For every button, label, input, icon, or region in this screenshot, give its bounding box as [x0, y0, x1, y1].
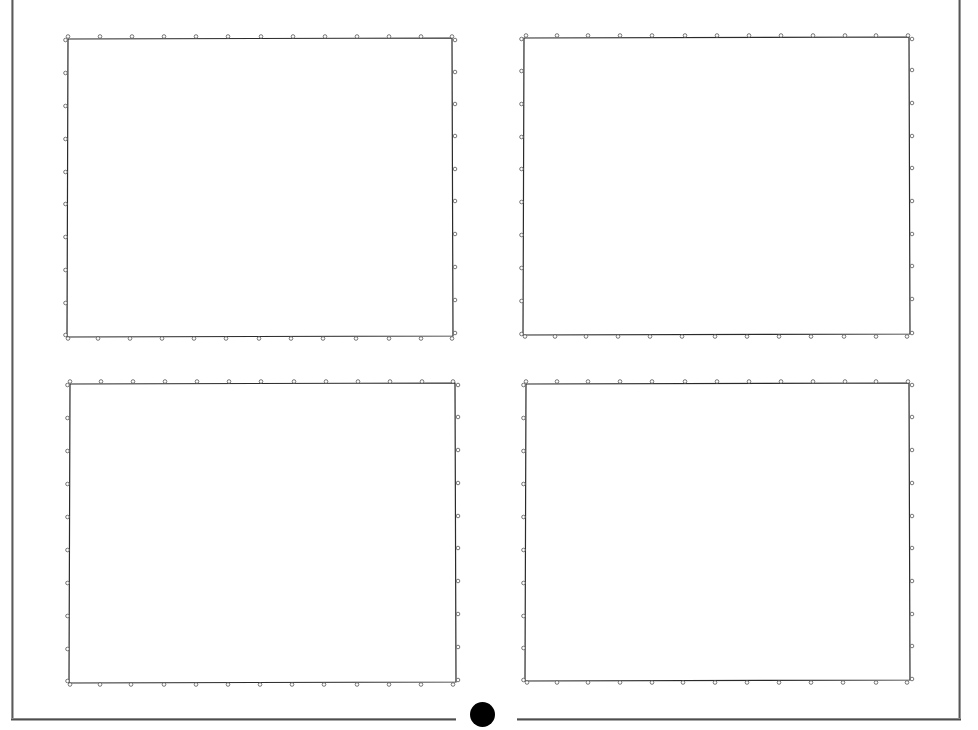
registration-marker-icon	[453, 265, 457, 269]
registration-marker-icon	[910, 199, 914, 203]
registration-marker-icon	[520, 102, 524, 106]
registration-marker-icon	[226, 35, 230, 39]
registration-marker-icon	[745, 681, 749, 685]
registration-marker-icon	[66, 416, 70, 420]
panel-bottom-right	[522, 380, 914, 685]
registration-marker-icon	[777, 335, 781, 339]
registration-marker-icon	[257, 337, 261, 341]
registration-marker-icon	[456, 579, 460, 583]
registration-marker-icon	[522, 416, 526, 420]
registration-marker-icon	[745, 335, 749, 339]
registration-marker-icon	[162, 683, 166, 687]
registration-marker-icon	[524, 380, 528, 384]
registration-marker-icon	[650, 380, 654, 384]
registration-marker-icon	[520, 69, 524, 73]
registration-marker-icon	[910, 37, 914, 41]
panel-border	[67, 38, 453, 337]
registration-marker-icon	[906, 34, 910, 38]
registration-marker-icon	[555, 34, 559, 38]
registration-marker-icon	[683, 380, 687, 384]
registration-marker-icon	[681, 681, 685, 685]
registration-marker-icon	[910, 612, 914, 616]
registration-marker-icon	[522, 383, 526, 387]
registration-marker-icon	[163, 380, 167, 384]
registration-marker-icon	[910, 331, 914, 335]
registration-marker-icon	[779, 380, 783, 384]
registration-marker-icon	[648, 335, 652, 339]
binding-hole-dot	[470, 702, 495, 727]
registration-marker-icon	[66, 647, 70, 651]
registration-marker-icon	[910, 101, 914, 105]
registration-marker-icon	[713, 335, 717, 339]
registration-marker-icon	[419, 683, 423, 687]
registration-marker-icon	[650, 681, 654, 685]
registration-marker-icon	[522, 581, 526, 585]
registration-marker-icon	[66, 614, 70, 618]
registration-marker-icon	[456, 612, 460, 616]
registration-marker-icon	[809, 335, 813, 339]
registration-marker-icon	[524, 34, 528, 38]
registration-marker-icon	[456, 415, 460, 419]
registration-marker-icon	[905, 681, 909, 685]
registration-marker-icon	[910, 579, 914, 583]
registration-marker-icon	[387, 337, 391, 341]
registration-marker-icon	[522, 548, 526, 552]
registration-marker-icon	[715, 34, 719, 38]
registration-marker-icon	[456, 383, 460, 387]
registration-marker-icon	[520, 266, 524, 270]
registration-marker-icon	[129, 683, 133, 687]
registration-marker-icon	[553, 335, 557, 339]
registration-marker-icon	[522, 646, 526, 650]
registration-marker-icon	[66, 35, 70, 39]
registration-marker-icon	[874, 380, 878, 384]
registration-marker-icon	[131, 380, 135, 384]
registration-marker-icon	[842, 335, 846, 339]
registration-marker-icon	[64, 301, 68, 305]
registration-marker-icon	[64, 202, 68, 206]
registration-marker-icon	[194, 35, 198, 39]
registration-marker-icon	[96, 337, 100, 341]
registration-marker-icon	[522, 449, 526, 453]
registration-marker-icon	[450, 35, 454, 39]
registration-marker-icon	[874, 34, 878, 38]
registration-marker-icon	[522, 614, 526, 618]
registration-marker-icon	[66, 337, 70, 341]
registration-marker-icon	[715, 380, 719, 384]
registration-marker-icon	[99, 380, 103, 384]
registration-marker-icon	[322, 683, 326, 687]
registration-marker-icon	[456, 546, 460, 550]
registration-marker-icon	[618, 380, 622, 384]
registration-marker-icon	[809, 681, 813, 685]
registration-marker-icon	[292, 380, 296, 384]
registration-marker-icon	[910, 166, 914, 170]
registration-marker-icon	[453, 331, 457, 335]
document-page	[0, 0, 978, 730]
registration-marker-icon	[555, 380, 559, 384]
registration-marker-icon	[683, 34, 687, 38]
registration-marker-icon	[451, 683, 455, 687]
registration-marker-icon	[64, 170, 68, 174]
registration-marker-icon	[910, 546, 914, 550]
panel-bottom-left	[66, 380, 460, 687]
panel-grid	[0, 0, 978, 730]
registration-marker-icon	[194, 683, 198, 687]
registration-marker-icon	[522, 678, 526, 682]
registration-marker-icon	[419, 337, 423, 341]
registration-marker-icon	[451, 380, 455, 384]
registration-marker-icon	[906, 380, 910, 384]
registration-marker-icon	[555, 681, 559, 685]
registration-marker-icon	[453, 298, 457, 302]
registration-marker-icon	[456, 481, 460, 485]
registration-marker-icon	[910, 514, 914, 518]
registration-marker-icon	[777, 681, 781, 685]
registration-marker-icon	[910, 481, 914, 485]
registration-marker-icon	[98, 35, 102, 39]
registration-marker-icon	[453, 199, 457, 203]
registration-marker-icon	[811, 380, 815, 384]
registration-marker-icon	[162, 35, 166, 39]
registration-marker-icon	[289, 337, 293, 341]
registration-marker-icon	[522, 515, 526, 519]
registration-marker-icon	[520, 37, 524, 41]
registration-marker-icon	[259, 380, 263, 384]
registration-marker-icon	[66, 383, 70, 387]
